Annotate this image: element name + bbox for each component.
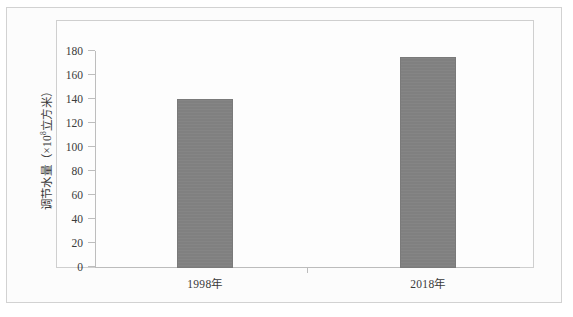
y-tick-mark <box>88 50 95 51</box>
y-tick-80: 80 <box>0 164 95 178</box>
y-tick-label: 20 <box>72 236 84 250</box>
chart-figure: 调节水量（×108立方米） 180 160 140 120 100 80 60 … <box>0 0 573 317</box>
y-tick-mark <box>88 170 95 171</box>
y-tick-40: 40 <box>0 212 95 226</box>
y-tick-label: 180 <box>66 44 83 58</box>
x-axis-label-2018: 2018年 <box>368 275 488 291</box>
y-tick-140: 140 <box>0 92 95 106</box>
x-axis-label-1998: 1998年 <box>145 275 265 291</box>
bar-1998[interactable] <box>177 99 233 268</box>
y-tick-mark <box>88 98 95 99</box>
y-tick-0: 0 <box>0 260 95 274</box>
y-tick-label: 0 <box>77 260 83 274</box>
y-tick-mark <box>88 266 95 267</box>
y-tick-label: 40 <box>72 212 84 226</box>
y-tick-160: 160 <box>0 68 95 82</box>
y-tick-mark <box>88 242 95 243</box>
y-tick-label: 60 <box>72 188 84 202</box>
y-tick-mark <box>88 122 95 123</box>
y-tick-mark <box>88 194 95 195</box>
plot-area-frame <box>56 20 534 268</box>
y-axis-line <box>95 51 96 268</box>
y-tick-mark <box>88 74 95 75</box>
y-tick-label: 100 <box>66 140 83 154</box>
y-tick-180: 180 <box>0 44 95 58</box>
x-tick-mark <box>307 268 308 273</box>
y-tick-120: 120 <box>0 116 95 130</box>
y-tick-label: 160 <box>66 68 83 82</box>
y-tick-label: 80 <box>72 164 84 178</box>
y-tick-60: 60 <box>0 188 95 202</box>
y-axis-title-exponent: 8 <box>39 131 48 135</box>
y-tick-mark <box>88 218 95 219</box>
y-tick-100: 100 <box>0 140 95 154</box>
y-tick-label: 140 <box>66 92 83 106</box>
bar-2018[interactable] <box>400 57 456 268</box>
y-tick-20: 20 <box>0 236 95 250</box>
y-tick-mark <box>88 146 95 147</box>
y-tick-label: 120 <box>66 116 83 130</box>
